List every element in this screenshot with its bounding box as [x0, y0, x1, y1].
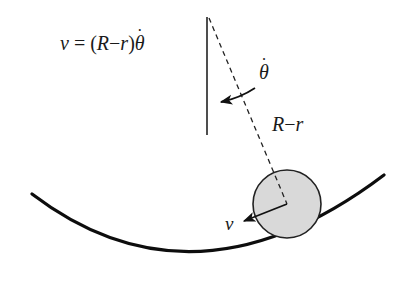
radius-minus: −	[284, 113, 295, 135]
angular-velocity-arrow	[221, 88, 255, 102]
eq-theta-dot: θ˙	[135, 33, 145, 53]
velocity-equation: v = (R−r)θ˙	[60, 33, 145, 53]
theta-dot-mark: ˙	[261, 56, 267, 74]
eq-minus: −	[109, 32, 120, 54]
bowl-curve	[32, 175, 384, 252]
eq-R: R	[97, 32, 109, 54]
velocity-label: v	[225, 214, 233, 233]
eq-r: r	[120, 32, 128, 54]
radius-r: r	[296, 113, 304, 135]
eq-dot: ˙	[137, 27, 143, 45]
eq-equals: = (	[69, 32, 97, 54]
eq-v: v	[60, 32, 69, 54]
theta-dot-label: θ˙	[259, 62, 269, 82]
diagram-canvas: v = (R−r)θ˙ θ˙ R−r v	[0, 0, 405, 281]
theta-dot: θ˙	[259, 62, 269, 82]
radius-label: R−r	[272, 114, 303, 134]
velocity-v: v	[225, 213, 233, 234]
radial-dashed-line	[209, 18, 287, 204]
eq-close: )	[128, 32, 135, 54]
radius-R: R	[272, 113, 284, 135]
